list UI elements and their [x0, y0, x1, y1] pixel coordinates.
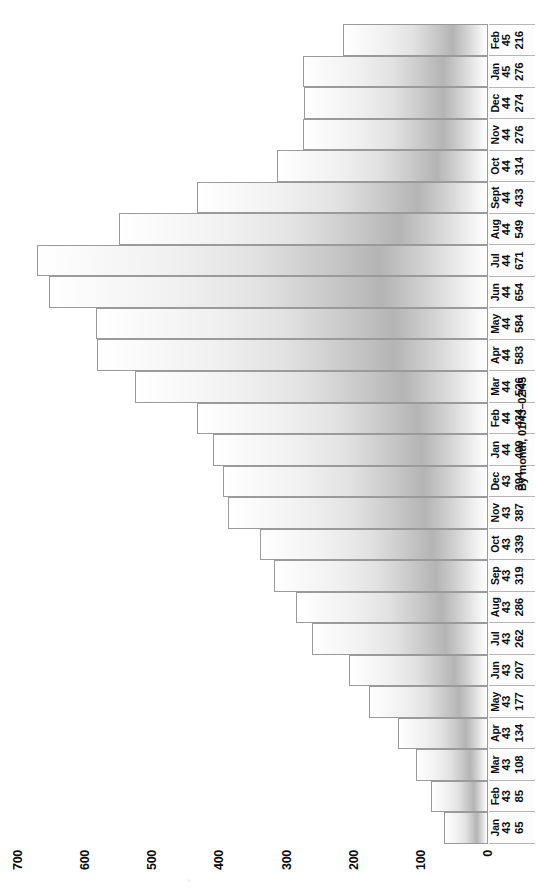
value-axis-tick: 100	[414, 850, 428, 870]
bar-slot	[18, 213, 488, 245]
bar[interactable]	[398, 718, 488, 750]
bar-year-label: 44	[501, 255, 513, 267]
bar-slot	[18, 718, 488, 750]
category-label-cell: Jan45276	[489, 56, 535, 88]
bar-year-label: 44	[501, 129, 513, 141]
bar-year-label: 45	[501, 66, 513, 78]
bar-series	[18, 24, 488, 844]
bar[interactable]	[135, 371, 488, 403]
bar-year-label: 43	[501, 570, 513, 582]
bar[interactable]	[260, 529, 488, 561]
category-label-cell: Jan44409	[489, 434, 535, 466]
value-axis-tick: 600	[78, 850, 92, 870]
bar-slot	[18, 340, 488, 372]
category-label-cell: Jan4365	[489, 812, 535, 845]
bar-year-label: 44	[501, 318, 513, 330]
bar-slot	[18, 56, 488, 88]
category-label-cell: May44584	[489, 308, 535, 340]
value-axis-tick: 400	[212, 850, 226, 870]
bar-slot	[18, 655, 488, 687]
bar[interactable]	[303, 119, 488, 151]
bar-year-label: 44	[501, 412, 513, 424]
bar-year-label: 43	[501, 475, 513, 487]
category-label-cell: Oct44314	[489, 150, 535, 182]
bar-chart-figure: 0100200300400500600700 Jan4365Feb4385Mar…	[0, 0, 540, 888]
category-label-cell: Jul44671	[489, 245, 535, 277]
bar-slot	[18, 276, 488, 308]
bar-slot	[18, 781, 488, 813]
category-label-cell: Sept44433	[489, 182, 535, 214]
category-label-cell: Jun44654	[489, 276, 535, 308]
bar-year-label: 44	[501, 97, 513, 109]
bar-year-label: 43	[501, 759, 513, 771]
bar[interactable]	[119, 213, 488, 245]
bar-year-label: 43	[501, 790, 513, 802]
bar-slot	[18, 245, 488, 277]
category-label-cell: Jun43207	[489, 654, 535, 686]
category-label-cell: Sep43319	[489, 560, 535, 592]
category-label-cell: Jul43262	[489, 623, 535, 655]
bar[interactable]	[223, 466, 488, 498]
bar-year-label: 44	[501, 444, 513, 456]
bar-year-label: 44	[501, 381, 513, 393]
bar[interactable]	[343, 24, 488, 56]
bar-year-label: 44	[501, 349, 513, 361]
bar-slot	[18, 434, 488, 466]
bar-year-label: 43	[501, 633, 513, 645]
category-label-cell: Nov44276	[489, 119, 535, 151]
value-axis: 0100200300400500600700	[18, 846, 488, 888]
bar-slot	[18, 560, 488, 592]
bar-slot	[18, 308, 488, 340]
bar-slot	[18, 371, 488, 403]
bar-year-label: 45	[501, 34, 513, 46]
bar-year-label: 44	[501, 223, 513, 235]
bar[interactable]	[96, 308, 488, 340]
bar-slot	[18, 592, 488, 624]
category-label-cell: Apr43134	[489, 717, 535, 749]
category-label-cell: Feb44434	[489, 402, 535, 434]
bar-year-label: 44	[501, 192, 513, 204]
bar-slot	[18, 182, 488, 214]
value-axis-tick: 0	[481, 850, 495, 857]
bar-slot	[18, 87, 488, 119]
value-axis-tick: 200	[347, 850, 361, 870]
bar[interactable]	[304, 87, 488, 119]
bar[interactable]	[369, 686, 488, 718]
bar[interactable]	[312, 623, 488, 655]
category-label-cell: Aug44549	[489, 213, 535, 245]
bar[interactable]	[274, 560, 488, 592]
bar-slot	[18, 623, 488, 655]
bar[interactable]	[213, 434, 488, 466]
category-label-cell: Dec44274	[489, 87, 535, 119]
bar[interactable]	[349, 655, 488, 687]
bar[interactable]	[444, 812, 488, 844]
category-label-cell: Aug43286	[489, 591, 535, 623]
bar-year-label: 43	[501, 601, 513, 613]
bar[interactable]	[49, 276, 488, 308]
category-label-cell: Dec43394	[489, 465, 535, 497]
bar[interactable]	[197, 403, 488, 435]
category-label-cell: Mar44526	[489, 371, 535, 403]
bar-year-label: 43	[501, 507, 513, 519]
bar[interactable]	[197, 182, 488, 214]
bar[interactable]	[97, 340, 488, 372]
value-axis-tick: 300	[280, 850, 294, 870]
bar[interactable]	[228, 497, 488, 529]
bar-year-label: 43	[501, 664, 513, 676]
bar-slot	[18, 529, 488, 561]
bar-year-label: 43	[501, 727, 513, 739]
bar[interactable]	[296, 592, 488, 624]
category-label-cell: Feb45216	[489, 24, 535, 56]
bar[interactable]	[37, 245, 488, 277]
bar-year-label: 44	[501, 286, 513, 298]
bar[interactable]	[416, 749, 489, 781]
bar[interactable]	[277, 150, 488, 182]
bar-slot	[18, 466, 488, 498]
bar[interactable]	[431, 781, 488, 813]
bar[interactable]	[303, 56, 488, 88]
bar-year-label: 43	[501, 696, 513, 708]
bar-slot	[18, 686, 488, 718]
bar-slot	[18, 749, 488, 781]
value-axis-tick: 500	[145, 850, 159, 870]
bar-year-label: 43	[501, 822, 513, 834]
